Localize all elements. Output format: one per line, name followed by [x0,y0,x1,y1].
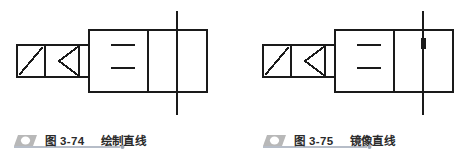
actuator-diagonal-line [20,48,42,74]
figure-number-label: 图 3-74 [45,132,85,148]
figure-title-label: 镜像直线 [350,132,395,148]
parallelogram-bullet-icon [14,134,38,147]
arrow-triangle [305,46,325,76]
figure-number-label: 图 3-75 [294,132,334,148]
arrow-triangle [59,46,79,76]
book-figure-page: 图 3-74 绘制直线 [0,0,462,155]
parallelogram-bullet-icon [263,134,287,147]
figure-3-75-block: 图 3-75 镜像直线 [231,0,462,155]
figure-caption-left: 图 3-74 绘制直线 [14,129,146,151]
valve-symbol-drawing-right [231,0,462,125]
figure-title-label: 绘制直线 [101,132,146,148]
valve-symbol-drawing-left [0,0,231,125]
figure-3-74-block: 图 3-74 绘制直线 [0,0,231,155]
actuator-diagonal-line [266,48,288,74]
grip-marker [421,38,427,49]
figure-caption-right: 图 3-75 镜像直线 [263,129,395,151]
